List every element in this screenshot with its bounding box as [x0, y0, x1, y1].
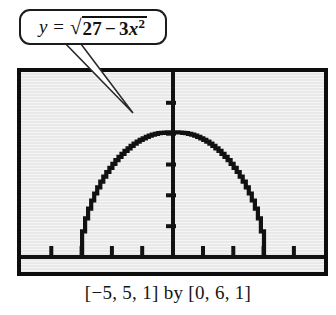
radical-expression: √ 27−3x2: [70, 16, 147, 38]
window-settings-caption: [−5, 5, 1] by [0, 6, 1]: [0, 282, 336, 304]
radicand-minus-sign: −: [102, 18, 119, 39]
radicand-exponent: 2: [138, 16, 145, 31]
graph-plot-area: [21, 72, 324, 272]
equation-text: y = √ 27−3x2: [39, 16, 147, 38]
equation-equals-sign: =: [53, 17, 64, 36]
radicand-constant: 27: [83, 18, 102, 39]
radicand: 27−3x2: [82, 16, 148, 38]
radicand-variable-letter: x: [129, 18, 139, 39]
calculator-screen-display: [21, 72, 324, 272]
calculator-screen-frame: [17, 68, 328, 276]
radical-sign-icon: √: [70, 17, 82, 39]
function-equation-callout: y = √ 27−3x2: [19, 9, 167, 45]
equation-y-symbol: y: [39, 17, 47, 36]
radicand-coefficient: 3: [119, 18, 129, 39]
radicand-variable: x2: [129, 18, 145, 39]
